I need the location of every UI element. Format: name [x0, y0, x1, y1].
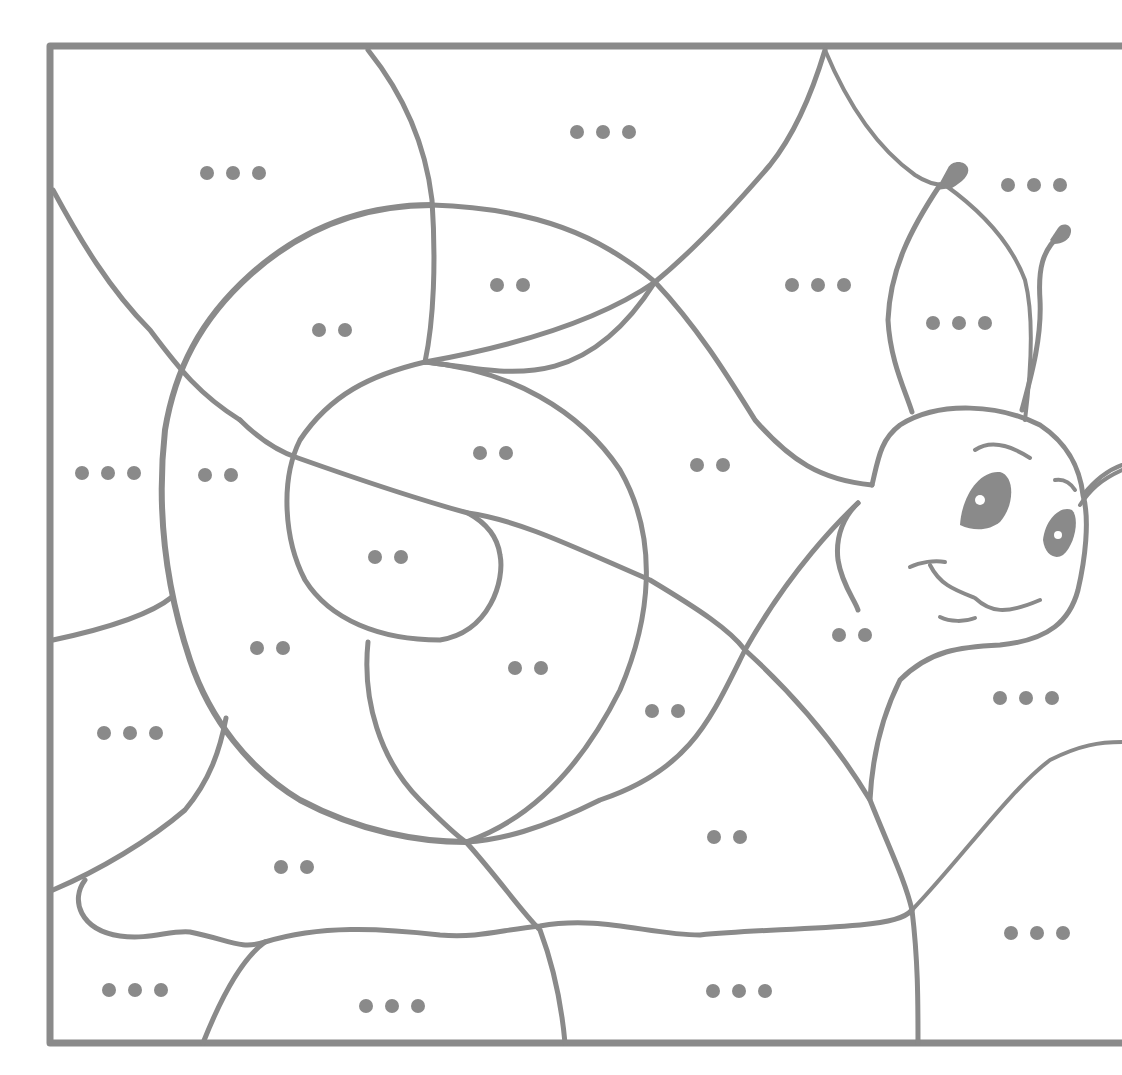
region-marker — [832, 628, 872, 642]
region-marker — [274, 860, 314, 874]
region-marker — [97, 726, 163, 740]
region-marker — [706, 984, 772, 998]
region-marker — [508, 661, 548, 675]
region-marker — [250, 641, 290, 655]
dot-markers — [75, 125, 1070, 1013]
region-marker — [1001, 178, 1067, 192]
snail-head — [837, 162, 1122, 800]
snail-shell — [162, 205, 655, 842]
region-marker — [785, 278, 851, 292]
region-marker — [570, 125, 636, 139]
region-marker — [198, 468, 238, 482]
region-marker — [490, 278, 530, 292]
region-marker — [993, 691, 1059, 705]
region-marker — [707, 830, 747, 844]
region-marker — [645, 704, 685, 718]
region-marker — [690, 458, 730, 472]
region-marker — [312, 323, 352, 337]
region-marker — [102, 983, 168, 997]
region-marker — [473, 446, 513, 460]
region-marker — [926, 316, 992, 330]
region-marker — [200, 166, 266, 180]
snail-foot — [78, 842, 912, 1043]
region-marker — [75, 466, 141, 480]
background-lines — [53, 50, 1122, 1043]
region-marker — [368, 550, 408, 564]
region-marker — [359, 999, 425, 1013]
region-marker — [1004, 926, 1070, 940]
coloring-worksheet — [0, 0, 1122, 1075]
